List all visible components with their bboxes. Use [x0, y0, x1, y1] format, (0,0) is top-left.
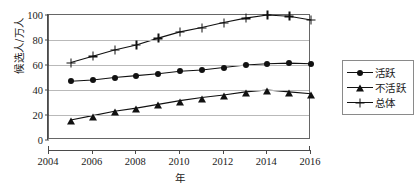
data-point-marker: [66, 58, 75, 67]
y-axis-tick-label: 60: [33, 60, 44, 71]
data-point-marker: [90, 77, 96, 83]
data-point-marker: [110, 46, 119, 55]
data-point-marker: [307, 91, 315, 98]
plot-area: 020406080100: [48, 14, 310, 139]
x-axis-title: 年: [0, 170, 360, 185]
chart-legend: 活跃 不活跃 总体: [342, 60, 414, 115]
chart-figure: 候选人/万人 020406080100 年 活跃 不活跃: [0, 0, 420, 188]
data-point-marker: [220, 93, 228, 100]
y-axis-tick-label: 80: [33, 35, 44, 46]
data-point-marker: [285, 89, 293, 96]
y-axis-tick-mark: [45, 15, 49, 16]
data-point-marker: [176, 27, 185, 36]
data-point-marker: [307, 16, 316, 25]
legend-item-active: 活跃: [347, 65, 408, 80]
legend-label-active: 活跃: [375, 65, 396, 80]
y-axis-tick-mark: [45, 90, 49, 91]
x-axis-tick-mark: [179, 150, 180, 154]
y-axis-tick-mark: [45, 65, 49, 66]
data-point-marker: [67, 118, 75, 125]
data-point-marker: [112, 75, 118, 81]
gridline: [49, 40, 309, 41]
y-axis-tick-mark: [45, 140, 49, 141]
data-point-marker: [154, 102, 162, 109]
data-point-marker: [219, 18, 228, 27]
data-point-marker: [177, 68, 183, 74]
data-point-marker: [68, 78, 74, 84]
x-axis-tick-label: 2012: [212, 156, 233, 167]
data-point-marker: [132, 106, 140, 113]
x-axis-tick-label: 2008: [125, 156, 146, 167]
plus-marker-icon: [347, 97, 373, 109]
data-point-marker: [88, 52, 97, 61]
data-point-marker: [285, 12, 294, 21]
legend-label-inactive: 不活跃: [375, 80, 406, 95]
x-axis-tick-mark: [310, 150, 311, 154]
circle-marker-icon: [347, 67, 373, 79]
x-axis-tick-mark: [135, 150, 136, 154]
data-point-marker: [308, 61, 314, 67]
data-point-marker: [132, 41, 141, 50]
y-axis-tick-mark: [45, 40, 49, 41]
legend-label-total: 总体: [375, 95, 396, 110]
series-line-plus: [71, 15, 311, 63]
legend-item-total: 总体: [347, 95, 408, 110]
data-point-marker: [243, 62, 249, 68]
x-axis-tick-label: 2006: [81, 156, 102, 167]
data-point-marker: [242, 89, 250, 96]
data-point-marker: [89, 113, 97, 120]
data-point-marker: [133, 73, 139, 79]
data-point-marker: [263, 11, 272, 20]
x-axis-tick-mark: [92, 150, 93, 154]
y-axis-tick-label: 0: [38, 135, 43, 146]
y-axis-tick-label: 100: [27, 10, 43, 21]
data-point-marker: [199, 67, 205, 73]
x-axis-tick-label: 2014: [256, 156, 277, 167]
data-point-marker: [155, 71, 161, 77]
y-axis-tick-label: 40: [33, 85, 44, 96]
data-point-marker: [111, 109, 119, 116]
data-point-marker: [264, 61, 270, 67]
x-axis-tick-mark: [223, 150, 224, 154]
data-point-marker: [286, 60, 292, 66]
data-point-marker: [221, 65, 227, 71]
x-axis-tick-mark: [48, 150, 49, 154]
data-point-marker: [154, 34, 163, 43]
y-axis-title: 候选人/万人: [11, 0, 26, 106]
x-axis-tick-label: 2010: [169, 156, 190, 167]
y-axis-tick-label: 20: [33, 110, 44, 121]
data-point-marker: [263, 88, 271, 95]
data-point-marker: [198, 95, 206, 102]
data-point-marker: [197, 23, 206, 32]
legend-item-inactive: 不活跃: [347, 80, 408, 95]
y-axis-tick-mark: [45, 115, 49, 116]
triangle-marker-icon: [347, 82, 373, 94]
x-axis-tick-mark: [266, 150, 267, 154]
data-point-marker: [241, 14, 250, 23]
gridline: [49, 65, 309, 66]
data-point-marker: [176, 98, 184, 105]
x-axis-tick-label: 2004: [38, 156, 59, 167]
x-axis-tick-label: 2016: [300, 156, 321, 167]
